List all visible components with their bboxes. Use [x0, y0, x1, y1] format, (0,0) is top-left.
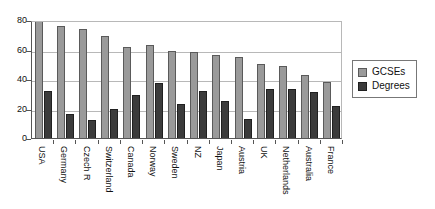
bar-group [35, 22, 52, 138]
chart-legend: GCSEsDegrees [352, 60, 417, 98]
bar-group [146, 22, 163, 138]
bar-degrees-sweden [177, 104, 185, 138]
x-axis-label: France [326, 146, 335, 174]
bar-gcses-australia [301, 75, 309, 138]
bar-degrees-japan [221, 101, 229, 138]
x-axis: USAGermanyCzech RSwitzerlandCanadaNorway… [31, 140, 342, 209]
bar-degrees-france [332, 106, 340, 138]
x-tick-mark [231, 140, 232, 144]
x-tick-mark [98, 140, 99, 144]
bar-group [190, 22, 207, 138]
x-axis-label: Germany [59, 146, 68, 183]
x-tick-mark [187, 140, 188, 144]
bar-degrees-austria [244, 119, 252, 138]
bar-gcses-austria [235, 57, 243, 138]
bar-gcses-japan [212, 55, 220, 138]
bar-gcses-norway [146, 45, 154, 138]
bar-gcses-usa [35, 21, 43, 138]
bar-gcses-sweden [168, 51, 176, 138]
bar-degrees-netherlands [288, 89, 296, 138]
x-tick-mark [53, 140, 54, 144]
x-axis-label: Netherlands [281, 146, 290, 195]
bar-gcses-france [323, 82, 331, 138]
bar-gcses-uk [257, 64, 265, 138]
bar-group [79, 22, 96, 138]
x-tick-mark [75, 140, 76, 144]
legend-label: Degrees [372, 81, 410, 91]
bar-gcses-netherlands [279, 66, 287, 138]
bar-gcses-germany [57, 26, 65, 138]
bar-group [168, 22, 185, 138]
bar-degrees-australia [310, 92, 318, 138]
bar-group [212, 22, 229, 138]
x-tick-mark [253, 140, 254, 144]
x-axis-label: UK [259, 146, 268, 159]
bar-group [57, 22, 74, 138]
x-tick-mark [164, 140, 165, 144]
bar-gcses-switzerland [101, 36, 109, 138]
x-axis-label: Sweden [170, 146, 179, 179]
bar-gcses-nz [190, 52, 198, 138]
bar-degrees-norway [155, 83, 163, 138]
bar-degrees-germany [66, 114, 74, 138]
legend-label: GCSEs [372, 67, 405, 77]
legend-item-gcses: GCSEs [358, 65, 410, 79]
x-tick-mark [298, 140, 299, 144]
x-tick-mark [342, 140, 343, 144]
x-axis-label: Austria [237, 146, 246, 174]
x-tick-mark [120, 140, 121, 144]
x-tick-mark [209, 140, 210, 144]
bar-group [323, 22, 340, 138]
legend-swatch-degrees-icon [358, 82, 367, 91]
bar-group [235, 22, 252, 138]
x-axis-label: Norway [148, 146, 157, 177]
bar-degrees-czech-r [88, 120, 96, 138]
bar-degrees-switzerland [110, 109, 118, 139]
x-axis-label: Australia [304, 146, 313, 181]
bars-layer [32, 22, 341, 138]
bar-group [101, 22, 118, 138]
x-axis-label: Switzerland [104, 146, 113, 193]
bar-degrees-canada [132, 95, 140, 138]
x-axis-label: NZ [193, 146, 202, 158]
plot-area [31, 21, 342, 139]
x-axis-label: Canada [126, 146, 135, 178]
x-tick-mark [142, 140, 143, 144]
bar-chart: 020406080 USAGermanyCzech RSwitzerlandCa… [0, 0, 435, 209]
bar-degrees-nz [199, 91, 207, 138]
bar-degrees-uk [266, 89, 274, 138]
legend-swatch-gcses-icon [358, 68, 367, 77]
x-axis-label: USA [37, 146, 46, 165]
bar-group [301, 22, 318, 138]
bar-group [123, 22, 140, 138]
y-axis: 020406080 [0, 0, 30, 209]
bar-gcses-czech-r [79, 29, 87, 138]
bar-group [257, 22, 274, 138]
bar-group [279, 22, 296, 138]
x-axis-label: Japan [215, 146, 224, 171]
legend-item-degrees: Degrees [358, 79, 410, 93]
bar-degrees-usa [44, 91, 52, 138]
x-axis-label: Czech R [82, 146, 91, 181]
bar-gcses-canada [123, 47, 131, 138]
x-tick-mark [275, 140, 276, 144]
x-tick-mark [320, 140, 321, 144]
